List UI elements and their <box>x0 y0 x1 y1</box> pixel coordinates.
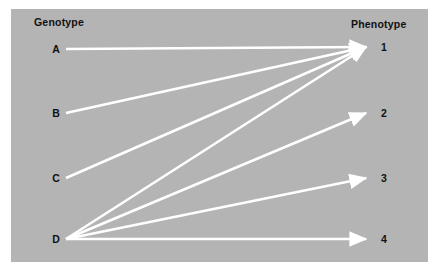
phenotype-column-header: Phenotype <box>351 18 406 30</box>
phenotype-node-1: 1 <box>381 41 387 53</box>
genotype-phenotype-figure: Genotype Phenotype ABCD 1234 <box>0 0 440 276</box>
genotype-node-C: C <box>52 172 60 184</box>
diagram-canvas: Genotype Phenotype ABCD 1234 <box>0 0 440 276</box>
phenotype-node-4: 4 <box>381 233 387 245</box>
phenotype-node-2: 2 <box>381 107 387 119</box>
genotype-column-header: Genotype <box>34 16 84 28</box>
genotype-node-B: B <box>52 107 60 119</box>
phenotype-node-3: 3 <box>381 172 387 184</box>
genotype-node-D: D <box>52 233 60 245</box>
genotype-node-A: A <box>52 43 60 55</box>
